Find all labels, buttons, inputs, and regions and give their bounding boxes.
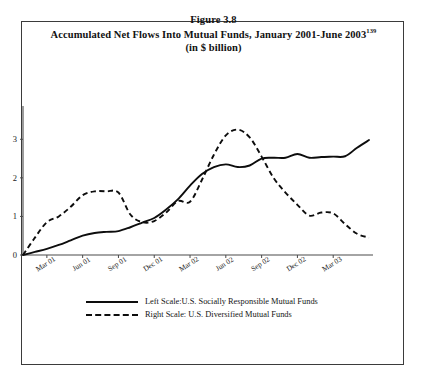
x-tick-label: Dec 01 (142, 254, 165, 273)
legend-label-left-scale: Left Scale:U.S. Socially Responsible Mut… (145, 297, 318, 306)
x-tick-label: Dec 02 (285, 254, 308, 273)
figure-number: Figure 3.8 (0, 13, 427, 27)
x-tick-label: Jun 01 (71, 255, 93, 273)
x-tick-label: Mar 03 (320, 254, 343, 273)
legend-swatch-solid-icon (86, 296, 138, 306)
figure-caption: Accumulated Net Flows Into Mutual Funds,… (0, 27, 427, 41)
y-tick-label: 2 (13, 173, 17, 183)
y-tick-label: 1 (13, 211, 17, 221)
series-line-dashed (23, 130, 369, 255)
chart-legend: Left Scale:U.S. Socially Responsible Mut… (0, 296, 383, 322)
legend-item-right-scale: Right Scale: U.S. Diversified Mutual Fun… (0, 309, 383, 319)
legend-swatch-dashed-icon (86, 309, 138, 319)
figure-title-block: Figure 3.8 Accumulated Net Flows Into Mu… (0, 13, 427, 55)
x-tick-label: Sep 01 (106, 255, 128, 274)
x-tick-label: Mar 01 (34, 254, 57, 273)
line-chart-svg: 0123 Mar 01Jun 01Sep 01Dec 01Mar 02Jun 0… (0, 74, 383, 274)
figure-caption-text: Accumulated Net Flows Into Mutual Funds,… (51, 28, 367, 39)
figure-footnote-marker: 139 (366, 27, 376, 34)
y-tick-label: 3 (13, 134, 17, 144)
chart-plot-area: 0123 Mar 01Jun 01Sep 01Dec 01Mar 02Jun 0… (0, 74, 383, 274)
x-axis-ticks: Mar 01Jun 01Sep 01Dec 01Mar 02Jun 02Sep … (34, 254, 344, 273)
x-tick-label: Mar 02 (177, 254, 200, 273)
x-tick-label: Jun 02 (214, 255, 236, 273)
figure-units: (in $ billion) (0, 41, 427, 55)
x-tick-label: Sep 02 (249, 255, 271, 274)
series-line-solid (23, 140, 369, 255)
y-axis-ticks: 0123 (13, 134, 23, 260)
y-tick-label: 0 (13, 250, 17, 260)
legend-label-right-scale: Right Scale: U.S. Diversified Mutual Fun… (145, 310, 292, 319)
legend-item-left-scale: Left Scale:U.S. Socially Responsible Mut… (0, 296, 383, 306)
